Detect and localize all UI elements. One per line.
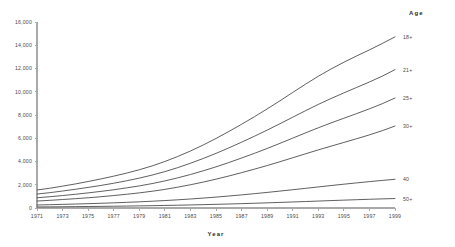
y-tick-label: 6,000 [18,135,32,141]
x-tick-label: 1975 [82,213,94,219]
y-tick-label: 12,000 [15,65,32,71]
legend-label-group: 18+21+25+30+4050+ [403,34,412,202]
y-tick-label: 0 [29,205,32,211]
legend-label-18plus: 18+ [403,34,412,40]
series-line-30plus [37,126,395,201]
x-axis-title: Year [207,231,224,237]
x-tick-label: 1985 [210,213,222,219]
x-tick-label: 1987 [235,213,247,219]
series-line-25plus [37,98,395,198]
x-tick-label: 1971 [31,213,43,219]
chart-canvas: 02,0004,0006,0008,00010,00012,00014,0001… [0,0,455,247]
x-tick-label: 1997 [363,213,375,219]
series-line-50plus [37,199,395,207]
legend-label-25plus: 25+ [403,95,412,101]
legend-title: Age [409,10,424,16]
legend-label-21plus: 21+ [403,67,412,73]
x-tick-label: 1991 [287,213,299,219]
x-axis-group: 1971197319751977197919811983198519871989… [31,208,401,219]
line-chart: 02,0004,0006,0008,00010,00012,00014,0001… [0,0,455,247]
x-tick-label: 1981 [159,213,171,219]
y-tick-label: 2,000 [18,182,32,188]
x-tick-label: 1979 [133,213,145,219]
y-axis-group: 02,0004,0006,0008,00010,00012,00014,0001… [15,19,37,211]
x-tick-label: 1977 [108,213,120,219]
y-tick-label: 10,000 [15,89,32,95]
y-tick-label: 14,000 [15,42,32,48]
y-tick-label: 4,000 [18,158,32,164]
y-tick-label-group: 02,0004,0006,0008,00010,00012,00014,0001… [15,19,32,211]
y-tick-label: 8,000 [18,112,32,118]
series-line-21plus [37,70,395,194]
x-tick-label: 1995 [338,213,350,219]
y-tick-label: 16,000 [15,19,32,25]
x-tick-label: 1989 [261,213,273,219]
x-tick-label: 1999 [389,213,401,219]
legend-label-50plus: 50+ [403,196,412,202]
legend-label-30plus: 30+ [403,123,412,129]
x-tick-label-group: 1971197319751977197919811983198519871989… [31,213,401,219]
x-tick-label: 1993 [312,213,324,219]
x-tick-label: 1983 [184,213,196,219]
series-group [37,37,395,207]
x-tick-label: 1973 [56,213,68,219]
legend-label-40: 40 [403,176,409,182]
